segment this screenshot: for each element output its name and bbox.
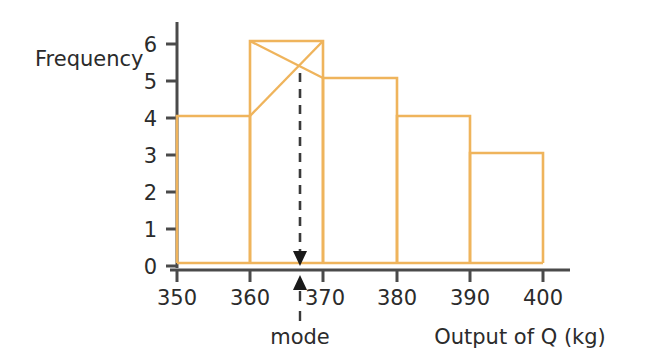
x-tick-label-380: 380 <box>377 286 417 310</box>
y-tick-label-5: 5 <box>144 70 157 94</box>
y-axis-title: Frequency <box>35 47 144 71</box>
mode-construction-lines <box>250 41 323 116</box>
mode-label: mode <box>270 325 330 349</box>
x-tick-label-390: 390 <box>450 286 490 310</box>
x-tick-label-350: 350 <box>157 286 197 310</box>
y-tick-label-1: 1 <box>144 218 157 242</box>
x-tick-label-400: 400 <box>523 286 563 310</box>
bar-360-370 <box>250 41 323 263</box>
x-axis-ticks <box>177 270 543 282</box>
x-axis-title: Output of Q (kg) <box>434 325 606 349</box>
bar-390-400 <box>470 153 543 263</box>
y-axis-tick-labels: 6 5 4 3 2 1 0 <box>144 33 157 279</box>
mode-up-arrowhead <box>293 275 307 290</box>
y-tick-label-2: 2 <box>144 181 157 205</box>
y-tick-label-4: 4 <box>144 107 157 131</box>
x-tick-label-360: 360 <box>230 286 270 310</box>
bar-370-380 <box>323 78 397 263</box>
y-tick-label-3: 3 <box>144 144 157 168</box>
bar-380-390 <box>397 116 470 263</box>
histogram-bars <box>177 41 543 263</box>
histogram-figure: Frequency 6 5 4 3 2 1 0 <box>0 0 668 360</box>
y-axis-ticks <box>166 44 177 266</box>
y-tick-label-0: 0 <box>144 255 157 279</box>
mode-line-left <box>250 41 323 116</box>
x-tick-label-370: 370 <box>305 286 345 310</box>
x-axis-tick-labels: 350 360 370 380 390 400 <box>157 286 563 310</box>
mode-line-right <box>250 41 323 78</box>
chart-canvas: Frequency 6 5 4 3 2 1 0 <box>0 0 668 360</box>
y-tick-label-6: 6 <box>144 33 157 57</box>
bar-350-360 <box>177 116 250 263</box>
